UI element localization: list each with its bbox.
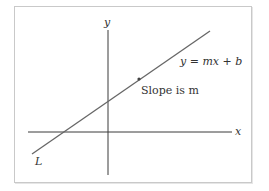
slope-label: Slope is m <box>141 85 199 96</box>
slope-point <box>137 77 140 80</box>
equation-label: y = mx + b <box>180 56 242 67</box>
line-name-label: L <box>35 156 42 167</box>
y-axis-label: y <box>104 17 110 28</box>
x-axis-label: x <box>235 126 241 137</box>
